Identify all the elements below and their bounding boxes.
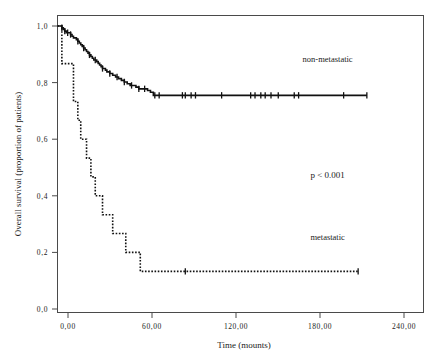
- x-tick-group-4: 240,00: [392, 313, 416, 332]
- plot-frame: [58, 16, 424, 313]
- annotation-non-metastatic: non-metastatic: [303, 54, 353, 64]
- x-axis-title: Time (mounts): [217, 340, 270, 350]
- y-axis: 1,0 0,8 0,6 0,4 0,2 0,0: [37, 22, 58, 314]
- x-tick-label: 60,00: [142, 322, 162, 331]
- annotation-pvalue: p < 0.001: [310, 170, 344, 180]
- y-tick-label: 1,0: [37, 22, 48, 31]
- y-tick-group-2: 0,6: [37, 135, 58, 144]
- x-tick-label: 0,00: [60, 322, 76, 331]
- y-tick-label: 0,0: [37, 305, 48, 314]
- x-tick-label: 240,00: [392, 322, 416, 331]
- x-tick-label: 180,00: [308, 322, 332, 331]
- annotation-metastatic: metastatic: [310, 232, 345, 242]
- survival-plot-svg: 1,0 0,8 0,6 0,4 0,2 0,0: [0, 0, 441, 362]
- y-tick-label: 0,8: [37, 79, 48, 88]
- x-tick-group-2: 120,00: [224, 313, 248, 332]
- x-tick-group-1: 60,00: [142, 313, 162, 332]
- censor-marks-metastatic: [185, 268, 358, 274]
- y-tick-label: 0,6: [37, 135, 48, 144]
- y-tick-label: 0,2: [37, 248, 48, 257]
- y-tick-label: 0,4: [37, 192, 48, 201]
- y-tick-group-3: 0,4: [37, 192, 58, 201]
- y-tick-group-4: 0,2: [37, 248, 58, 257]
- x-tick-group-3: 180,00: [308, 313, 332, 332]
- y-tick-group-5: 0,0: [37, 305, 58, 314]
- kaplan-meier-figure: 1,0 0,8 0,6 0,4 0,2 0,0: [0, 0, 441, 362]
- x-tick-group-0: 0,00: [60, 313, 76, 332]
- x-axis: 0,00 60,00 120,00 180,00 240,00: [60, 313, 416, 332]
- y-tick-group-0: 1,0: [37, 22, 58, 31]
- y-axis-title: Overall survival (proportion of patients…: [13, 92, 23, 236]
- y-tick-group-1: 0,8: [37, 79, 58, 88]
- x-tick-label: 120,00: [224, 322, 248, 331]
